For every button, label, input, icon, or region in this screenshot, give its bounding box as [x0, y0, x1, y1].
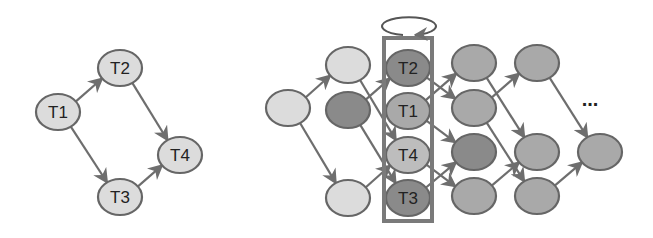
- right-node-e1: [515, 134, 559, 170]
- node-label: T1: [48, 103, 68, 122]
- right-graph-nodes: T2T1T4T3: [266, 45, 622, 216]
- right-node-f0: [578, 134, 622, 170]
- right-node-d1: [452, 90, 496, 126]
- left-node-t1: T1: [36, 94, 80, 130]
- right-edge: [305, 75, 330, 98]
- right-edge: [554, 162, 582, 186]
- right-node-t1: T1: [386, 93, 430, 129]
- node-circle: [452, 45, 496, 81]
- node-circle: [326, 92, 370, 128]
- right-node-e2: [515, 178, 559, 214]
- left-edge: [137, 165, 162, 187]
- node-circle: [515, 45, 559, 81]
- left-edge: [132, 82, 168, 140]
- right-node-d0: [452, 45, 496, 81]
- node-label: T3: [398, 189, 418, 208]
- left-node-t2: T2: [98, 50, 142, 86]
- right-edge: [300, 122, 336, 183]
- task-graph-diagram: T1T2T3T4 T2T1T4T3 ...: [0, 0, 653, 238]
- right-edge: [491, 73, 519, 98]
- node-circle: [578, 134, 622, 170]
- right-node-b1: [326, 92, 370, 128]
- node-circle: [266, 90, 310, 126]
- diagram-svg: T1T2T3T4 T2T1T4T3 ...: [0, 0, 653, 238]
- right-node-b2: [326, 180, 370, 216]
- node-circle: [515, 178, 559, 214]
- right-edge: [491, 162, 519, 186]
- loop-arrow-icon: [382, 17, 436, 35]
- node-label: T2: [110, 59, 130, 78]
- right-node-t3: T3: [386, 180, 430, 216]
- right-node-d3: [452, 178, 496, 214]
- right-edge: [365, 165, 390, 188]
- left-edge: [75, 78, 102, 102]
- node-circle: [326, 180, 370, 216]
- node-circle: [452, 178, 496, 214]
- left-node-t3: T3: [98, 179, 142, 215]
- right-node-t2: T2: [386, 50, 430, 86]
- node-circle: [452, 134, 496, 170]
- ellipsis-text: ...: [582, 88, 599, 110]
- node-label: T3: [110, 188, 130, 207]
- right-node-d2: [452, 134, 496, 170]
- node-label: T1: [398, 102, 418, 121]
- left-edge: [70, 126, 107, 183]
- right-node-b0: [326, 47, 370, 83]
- right-node-a0: [266, 90, 310, 126]
- right-graph-edges: [300, 73, 588, 188]
- node-label: T4: [170, 146, 190, 165]
- node-circle: [326, 47, 370, 83]
- right-node-e0: [515, 45, 559, 81]
- left-node-t4: T4: [158, 137, 202, 173]
- node-circle: [452, 90, 496, 126]
- left-graph-nodes: T1T2T3T4: [36, 50, 202, 215]
- left-graph-edges: [70, 78, 167, 187]
- node-label: T4: [398, 146, 418, 165]
- node-circle: [515, 134, 559, 170]
- node-label: T2: [398, 59, 418, 78]
- right-node-t4: T4: [386, 137, 430, 173]
- right-edge: [365, 78, 390, 100]
